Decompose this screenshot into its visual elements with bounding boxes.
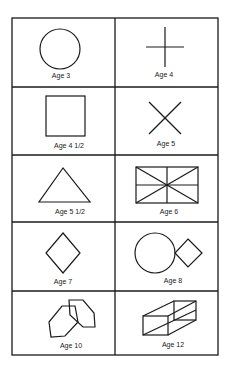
cell-age-8: Age 8 (135, 233, 202, 285)
age-label: Age 3 (52, 72, 70, 80)
age-label: Age 6 (160, 208, 178, 216)
age-label: Age 5 1/2 (55, 208, 85, 216)
age-label: Age 5 (157, 140, 175, 148)
cell-age-6: Age 6 (136, 167, 198, 216)
cell-age-12: Age 12 (143, 301, 196, 349)
circle-and-diamond-shape (135, 233, 202, 273)
triangle-shape (39, 168, 90, 202)
cell-age-4-1-2: Age 4 1/2 (46, 96, 85, 150)
square-shape (46, 96, 85, 136)
diamond-shape (46, 233, 80, 273)
shape-age-chart: Age 3 Age 4 Age 4 1/2 Age 5 Age 5 1/2 A (0, 0, 229, 371)
age-label: Age 4 1/2 (54, 142, 84, 150)
cell-age-5-1-2: Age 5 1/2 (39, 168, 90, 216)
cell-age-10: Age 10 (49, 300, 95, 350)
divided-rectangle-shape (136, 167, 198, 203)
cell-age-5: Age 5 (149, 102, 181, 148)
cross-shape (146, 27, 184, 67)
overlapping-hexagons-shape (49, 300, 95, 337)
age-label: Age 12 (162, 341, 184, 349)
age-label: Age 4 (155, 71, 173, 79)
age-label: Age 8 (164, 277, 182, 285)
cell-age-3: Age 3 (40, 29, 80, 80)
x-cross-shape (149, 102, 181, 134)
age-label: Age 7 (54, 278, 72, 286)
wireframe-box-shape (143, 301, 196, 335)
cell-age-4: Age 4 (146, 27, 184, 79)
circle-shape (40, 29, 80, 69)
grid (12, 18, 218, 355)
age-label: Age 10 (60, 342, 82, 350)
cell-age-7: Age 7 (46, 233, 80, 286)
